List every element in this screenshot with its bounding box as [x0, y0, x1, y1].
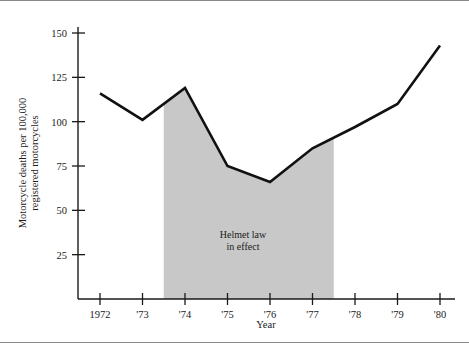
- x-tick-label: '75: [221, 309, 233, 320]
- y-tick-label: 75: [57, 161, 68, 172]
- helmet-law-shaded-region: [164, 88, 334, 299]
- x-tick-label: '79: [391, 309, 403, 320]
- annotation-helmet-law-line2: in effect: [227, 241, 260, 252]
- y-axis-title-line1: Motorcycle deaths per 100,000: [17, 98, 28, 229]
- y-tick-label: 25: [57, 250, 68, 261]
- y-tick-label: 125: [51, 72, 67, 83]
- x-tick-label: '78: [349, 309, 361, 320]
- y-tick-label: 150: [51, 28, 67, 39]
- data-series-line: [100, 45, 440, 182]
- x-tick-label: 1972: [90, 309, 111, 320]
- line-chart-svg: 255075100125150 1972'73'74'75'76'77'78'7…: [0, 1, 469, 343]
- chart-canvas: 255075100125150 1972'73'74'75'76'77'78'7…: [0, 1, 469, 343]
- y-axis-title-line2: registered motorcycles: [29, 115, 40, 210]
- y-tick-label: 50: [57, 205, 68, 216]
- x-axis-title: Year: [256, 319, 276, 330]
- x-tick-label: '73: [136, 309, 148, 320]
- x-tick-label: '80: [434, 309, 446, 320]
- y-tick-label: 100: [51, 117, 67, 128]
- figure-frame: 255075100125150 1972'73'74'75'76'77'78'7…: [0, 0, 469, 343]
- annotation-helmet-law-line1: Helmet law: [220, 229, 267, 240]
- x-tick-label: '74: [179, 309, 192, 320]
- y-axis-tick-labels: 255075100125150: [51, 28, 67, 261]
- x-tick-label: '77: [306, 309, 318, 320]
